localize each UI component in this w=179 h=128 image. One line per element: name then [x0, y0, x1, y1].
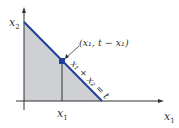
- x-axis-arrow-icon: [158, 99, 164, 103]
- y-axis-arrow-icon: [22, 7, 26, 13]
- point-label: (x₁, t − x₁): [79, 37, 129, 48]
- x-axis-label: x1: [164, 110, 175, 125]
- tick-label-x1: x1: [57, 107, 68, 122]
- y-axis-label: x2: [9, 16, 20, 31]
- point-marker: [59, 58, 65, 64]
- diagram: x2 x1 x1 (x₁, t − x₁) x₁ + x₂ = t: [0, 0, 179, 128]
- budget-line-diagram: x2 x1 x1 (x₁, t − x₁) x₁ + x₂ = t: [0, 0, 179, 128]
- pointer-arrow-icon: [65, 54, 69, 59]
